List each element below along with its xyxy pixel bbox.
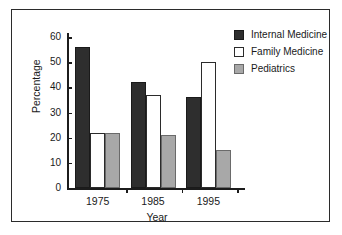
- y-axis-tick: [68, 138, 72, 140]
- bar: [105, 133, 120, 188]
- y-axis-tick: [68, 37, 72, 39]
- x-axis-tick-label: 1995: [197, 195, 220, 207]
- bar: [161, 135, 176, 188]
- y-axis-tick-label: 0: [55, 183, 61, 193]
- x-axis-tick-label: 1975: [86, 195, 109, 207]
- legend-item-label: Family Medicine: [251, 47, 323, 57]
- x-axis-tick: [182, 188, 184, 193]
- chart-legend: Internal MedicineFamily MedicinePediatri…: [234, 28, 339, 79]
- x-axis-line: [67, 188, 245, 190]
- y-axis-tick-label: 30: [50, 108, 61, 118]
- legend-item: Family Medicine: [234, 45, 339, 59]
- legend-swatch-icon: [234, 64, 244, 74]
- y-axis-line: [67, 33, 69, 189]
- y-axis-tick: [68, 113, 72, 115]
- bar: [216, 150, 231, 188]
- y-axis-tick: [68, 62, 72, 64]
- y-axis-tick: [68, 87, 72, 89]
- x-axis-tick-label: 1985: [141, 195, 164, 207]
- legend-swatch-icon: [234, 47, 244, 57]
- y-axis-tick-label: 20: [50, 133, 61, 143]
- bar: [201, 62, 216, 188]
- bar: [131, 82, 146, 188]
- y-axis-tick-label: 40: [50, 82, 61, 92]
- chart-frame: Percentage 0102030405060 197519851995 Ye…: [11, 9, 330, 222]
- x-axis-tick: [237, 188, 239, 193]
- legend-item-label: Internal Medicine: [251, 30, 327, 40]
- bar: [75, 47, 90, 188]
- y-axis-tick-label: 60: [50, 32, 61, 42]
- legend-swatch-icon: [234, 30, 244, 40]
- x-axis-tick: [126, 188, 128, 193]
- legend-item: Pediatrics: [234, 62, 339, 76]
- y-axis-tick: [68, 188, 72, 190]
- plot-area: 0102030405060 197519851995: [68, 37, 234, 188]
- bar: [186, 97, 201, 188]
- y-axis-tick: [68, 163, 72, 165]
- bar: [146, 95, 161, 188]
- legend-item-label: Pediatrics: [251, 64, 295, 74]
- bar: [90, 133, 105, 188]
- y-axis-tick-label: 50: [50, 57, 61, 67]
- y-axis-tick-label: 10: [50, 158, 61, 168]
- legend-item: Internal Medicine: [234, 28, 339, 42]
- chart-figure: Percentage 0102030405060 197519851995 Ye…: [0, 0, 342, 235]
- x-axis-title: Year: [68, 211, 246, 223]
- y-axis-title: Percentage: [30, 59, 42, 113]
